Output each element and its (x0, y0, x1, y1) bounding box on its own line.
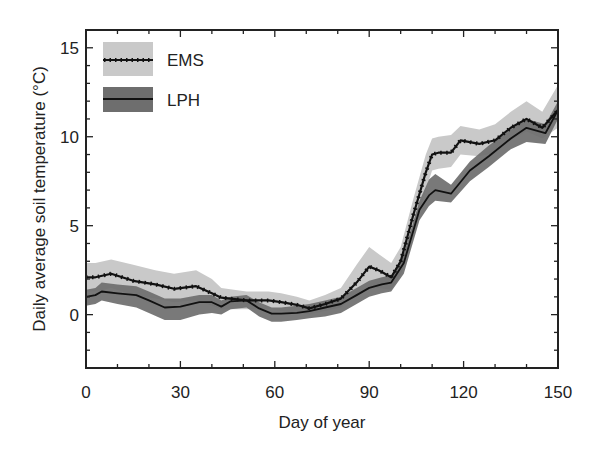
legend-label-ems: EMS (167, 51, 204, 70)
plot-frame (86, 30, 558, 368)
x-tick-label: 0 (81, 383, 90, 402)
y-tick-label: 5 (70, 217, 79, 236)
legend-item-lph: LPH (103, 87, 200, 112)
y-tick-label: 0 (70, 306, 79, 325)
x-tick-label: 90 (360, 383, 379, 402)
x-axis-title: Day of year (279, 413, 366, 432)
x-tick-label: 60 (265, 383, 284, 402)
soil-temperature-chart: 0306090120150051015 Day of year Daily av… (0, 0, 606, 455)
y-axis-title: Daily average soil temperature (°C) (30, 66, 49, 332)
band-ems (86, 85, 558, 315)
x-tick-label: 30 (171, 383, 190, 402)
x-tick-label: 150 (544, 383, 572, 402)
axis-ticks (86, 30, 558, 368)
y-tick-label: 15 (60, 39, 79, 58)
legend-item-ems: EMS (103, 42, 204, 76)
legend: EMS LPH (103, 42, 204, 112)
legend-label-lph: LPH (167, 91, 200, 110)
x-tick-label: 120 (449, 383, 477, 402)
y-tick-label: 10 (60, 128, 79, 147)
